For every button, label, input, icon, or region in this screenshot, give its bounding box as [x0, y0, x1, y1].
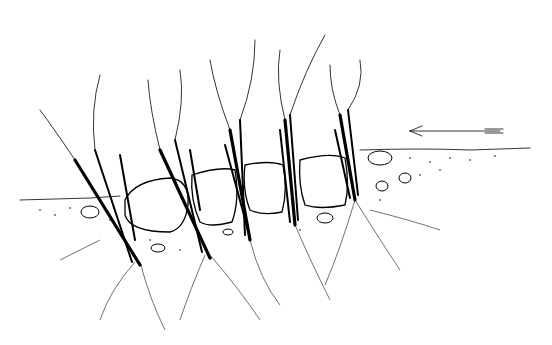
flow-arrow-icon [410, 126, 503, 136]
willow-bank-drawing [0, 0, 552, 345]
illustration [0, 0, 552, 345]
twigs [40, 35, 361, 160]
